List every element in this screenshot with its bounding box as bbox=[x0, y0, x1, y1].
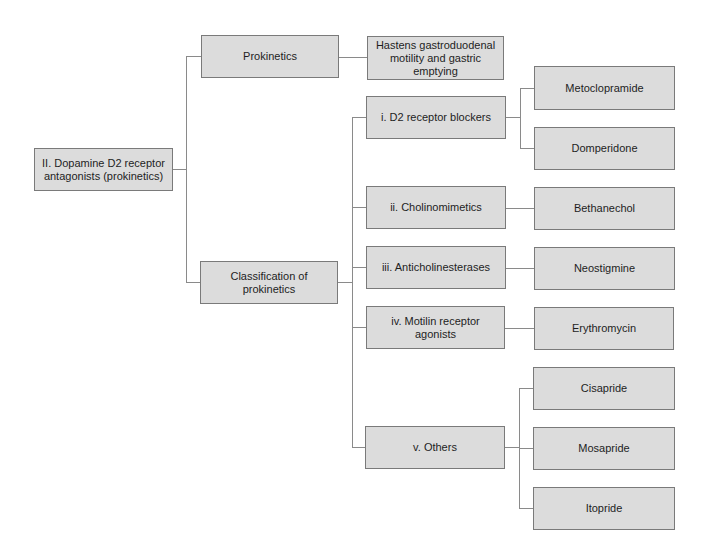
drug-mosapride: Mosapride bbox=[533, 427, 675, 470]
class-label: iii. Anticholinesterases bbox=[382, 261, 490, 274]
root-node-label: II. Dopamine D2 receptor antagonists (pr… bbox=[41, 157, 166, 183]
drug-metoclopramide: Metoclopramide bbox=[534, 66, 675, 110]
connector bbox=[519, 388, 533, 389]
class-anticholinesterases: iii. Anticholinesterases bbox=[366, 246, 506, 289]
connector bbox=[352, 117, 366, 118]
connector bbox=[506, 117, 520, 118]
drug-erythromycin: Erythromycin bbox=[534, 307, 674, 350]
prokinetics-label: Prokinetics bbox=[243, 50, 297, 63]
connector bbox=[339, 57, 367, 58]
root-node: II. Dopamine D2 receptor antagonists (pr… bbox=[34, 148, 173, 191]
class-label: v. Others bbox=[413, 441, 457, 454]
hastens-node: Hastens gastroduodenal motility and gast… bbox=[367, 36, 504, 80]
drug-label: Bethanechol bbox=[574, 202, 635, 215]
drug-label: Itopride bbox=[586, 502, 623, 515]
classification-label: Classification of prokinetics bbox=[207, 270, 331, 296]
class-label: ii. Cholinomimetics bbox=[390, 201, 482, 214]
class-label: iv. Motilin receptor agonists bbox=[373, 315, 498, 341]
class-motilin-agonists: iv. Motilin receptor agonists bbox=[366, 306, 505, 349]
connector bbox=[519, 448, 533, 449]
drug-itopride: Itopride bbox=[533, 487, 675, 530]
drug-bethanechol: Bethanechol bbox=[534, 187, 675, 230]
connector bbox=[520, 88, 534, 89]
connector bbox=[352, 447, 365, 448]
connector bbox=[505, 447, 519, 448]
hastens-label: Hastens gastroduodenal motility and gast… bbox=[374, 39, 497, 78]
drug-label: Domperidone bbox=[571, 142, 637, 155]
drug-label: Erythromycin bbox=[572, 322, 636, 335]
drug-cisapride: Cisapride bbox=[533, 367, 675, 410]
classification-node: Classification of prokinetics bbox=[200, 261, 338, 304]
connector bbox=[352, 117, 353, 448]
class-cholinomimetics: ii. Cholinomimetics bbox=[366, 186, 506, 229]
connector bbox=[186, 56, 201, 57]
class-d2-blockers: i. D2 receptor blockers bbox=[366, 96, 506, 139]
drug-label: Cisapride bbox=[581, 382, 627, 395]
drug-label: Neostigmine bbox=[574, 262, 635, 275]
connector bbox=[338, 282, 352, 283]
connector bbox=[506, 208, 534, 209]
connector bbox=[506, 268, 534, 269]
drug-label: Mosapride bbox=[578, 442, 629, 455]
drug-neostigmine: Neostigmine bbox=[534, 247, 675, 290]
class-label: i. D2 receptor blockers bbox=[381, 111, 491, 124]
prokinetics-node: Prokinetics bbox=[201, 35, 339, 78]
connector bbox=[352, 207, 366, 208]
connector bbox=[352, 327, 366, 328]
drug-label: Metoclopramide bbox=[565, 82, 643, 95]
connector bbox=[173, 169, 186, 170]
drug-domperidone: Domperidone bbox=[534, 127, 675, 170]
connector bbox=[520, 88, 521, 149]
connector bbox=[186, 56, 187, 283]
class-others: v. Others bbox=[365, 426, 505, 469]
connector bbox=[186, 282, 200, 283]
connector bbox=[505, 328, 534, 329]
connector bbox=[519, 508, 533, 509]
connector bbox=[352, 267, 366, 268]
connector bbox=[520, 148, 534, 149]
